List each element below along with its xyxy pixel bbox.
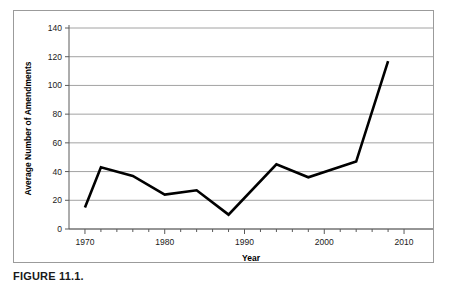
x-axis-ticks-group: 19701980199020002010: [75, 229, 413, 247]
y-tick-label: 20: [53, 195, 63, 205]
data-series-line: [85, 61, 388, 215]
gridlines-group: [69, 28, 433, 229]
x-tick-label: 2000: [315, 237, 334, 247]
y-axis-ticks-group: 020406080100120140: [48, 23, 69, 234]
y-tick-label: 100: [48, 80, 62, 90]
y-tick-label: 80: [53, 109, 63, 119]
figure-container: 19701980199020002010 020406080100120140 …: [0, 0, 449, 289]
x-tick-label: 1970: [75, 237, 94, 247]
y-axis-title: Average Number of Amendments: [23, 61, 33, 195]
y-tick-label: 0: [57, 224, 62, 234]
x-axis-title: Year: [242, 253, 261, 262]
x-tick-label: 2010: [395, 237, 414, 247]
chart-frame: 19701980199020002010 020406080100120140 …: [13, 10, 434, 263]
line-chart: 19701980199020002010 020406080100120140 …: [14, 11, 433, 262]
figure-caption: FIGURE 11.1.: [13, 270, 84, 282]
y-tick-label: 60: [53, 138, 63, 148]
x-tick-label: 1990: [235, 237, 254, 247]
y-tick-label: 120: [48, 52, 62, 62]
y-tick-label: 140: [48, 23, 62, 33]
y-tick-label: 40: [53, 167, 63, 177]
x-tick-label: 1980: [155, 237, 174, 247]
